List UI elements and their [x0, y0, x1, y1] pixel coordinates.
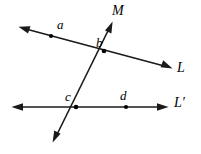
label-line-l: L: [177, 61, 185, 75]
line-lprime-right-arrowhead: [157, 103, 169, 111]
label-point-b: b: [96, 36, 103, 49]
point-c-dot: [74, 105, 79, 110]
line-m-group: [53, 22, 113, 143]
label-line-m: M: [112, 4, 124, 18]
label-point-c: c: [65, 90, 71, 103]
label-line-l-prime: L′: [174, 96, 185, 110]
line-lprime-group: [12, 103, 169, 111]
point-d-dot: [124, 105, 128, 109]
line-m-top-arrowhead: [105, 22, 113, 34]
line-l-right-arrowhead: [161, 60, 173, 68]
label-point-d: d: [120, 89, 127, 102]
geometry-canvas: [0, 0, 201, 154]
line-lprime-left-arrowhead: [12, 103, 24, 111]
line-m-bottom-arrowhead: [53, 130, 61, 142]
line-l-left-arrowhead: [19, 26, 31, 33]
point-a-dot: [49, 34, 53, 38]
label-point-a: a: [57, 18, 64, 31]
geometry-figure: M a b L c d L′: [0, 0, 201, 154]
